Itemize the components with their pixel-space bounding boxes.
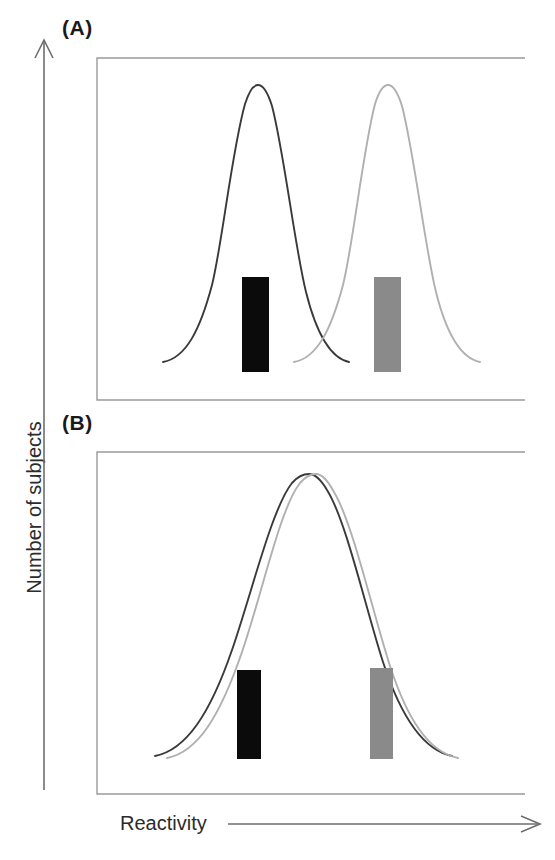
panel-b-gray-bar (370, 668, 393, 759)
plot-canvas (0, 0, 555, 860)
panel-a-black-bar (242, 277, 269, 372)
figure-root: (A) (B) Number of subjects Reactivity (0, 0, 555, 860)
arrow-right-icon (228, 816, 540, 832)
panel-b-light-curve (167, 474, 458, 758)
arrow-up-icon (35, 40, 53, 790)
panel-b-dark-curve (155, 474, 452, 756)
panel-a-gray-bar (374, 277, 401, 372)
panel-b-black-bar (237, 670, 261, 759)
panel-b-frame (97, 452, 525, 794)
